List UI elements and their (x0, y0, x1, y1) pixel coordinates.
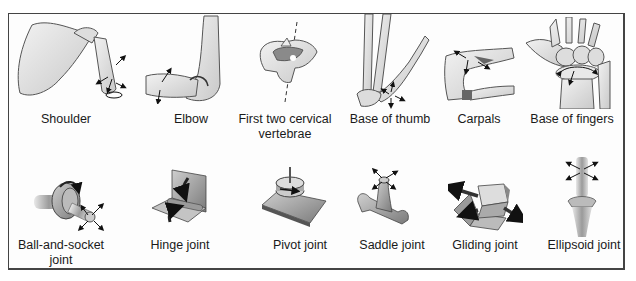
label-base-of-fingers: Base of fingers (512, 112, 632, 127)
gliding-model-icon (448, 172, 523, 232)
label-hinge-joint: Hinge joint (120, 238, 240, 253)
label-ellipsoid-joint: Ellipsoid joint (524, 238, 636, 253)
saddle-model-icon (348, 168, 418, 233)
shoulder-illustration (12, 17, 127, 102)
pivot-model-icon (258, 165, 330, 230)
carpals-illustration (442, 40, 517, 105)
label-cervical-vertebrae: First two cervical vertebrae (230, 112, 340, 142)
ellipsoid-model-icon (552, 155, 612, 237)
cervical-vertebrae-illustration (255, 20, 325, 105)
elbow-illustration (140, 14, 230, 104)
label-ball-and-socket-joint: Ball-and-socket joint (16, 238, 106, 268)
label-shoulder: Shoulder (6, 112, 126, 127)
thumb-illustration (345, 14, 435, 109)
fingers-illustration (522, 17, 622, 109)
hinge-model-icon (148, 168, 213, 228)
ball-and-socket-model-icon (30, 165, 115, 235)
